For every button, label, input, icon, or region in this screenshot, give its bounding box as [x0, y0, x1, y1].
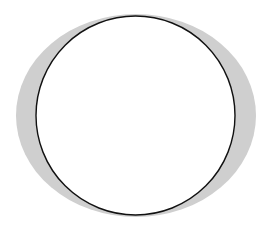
outlined-circle [36, 16, 235, 215]
figure-svg [0, 0, 269, 227]
figure-canvas [0, 0, 269, 227]
